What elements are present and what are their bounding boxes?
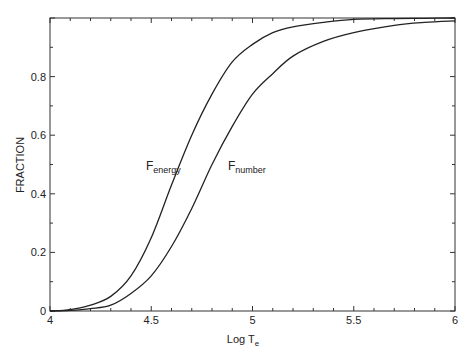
- x-tick-label: 4.5: [144, 314, 159, 326]
- x-tick-label: 5.5: [346, 314, 361, 326]
- x-axis-label: Log Te: [227, 333, 260, 348]
- y-tick-label: 0.4: [31, 188, 46, 200]
- y-tick-label: 0: [40, 305, 46, 317]
- y-tick-label: 0.6: [31, 129, 46, 141]
- label-f-energy: Fenergy: [146, 159, 181, 175]
- y-tick-label: 0.2: [31, 246, 46, 258]
- fraction-chart: 44.555.5600.20.40.60.8 FRACTION Log Te F…: [0, 0, 471, 359]
- x-tick-label: 6: [452, 314, 458, 326]
- label-f-number: Fnumber: [228, 159, 266, 175]
- y-axis-label: FRACTION: [14, 137, 26, 193]
- x-tick-label: 5: [249, 314, 255, 326]
- y-tick-label: 0.8: [31, 71, 46, 83]
- x-tick-label: 4: [47, 314, 53, 326]
